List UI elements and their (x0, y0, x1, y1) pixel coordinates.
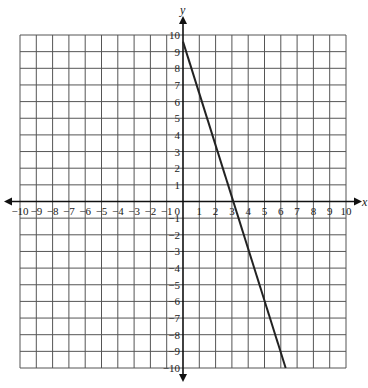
x-tick-label: −6 (79, 205, 91, 217)
origin-label: 0 (175, 205, 181, 217)
y-tick-label: 6 (175, 96, 181, 108)
x-axis-arrow-right-icon (354, 198, 362, 206)
x-tick-label: −3 (128, 205, 140, 217)
x-tick-label: 4 (245, 205, 251, 217)
x-tick-label: 1 (197, 205, 203, 217)
x-tick-label: 10 (341, 205, 353, 217)
y-tick-label: 3 (175, 146, 181, 158)
y-tick-label: 2 (175, 162, 181, 174)
x-tick-label: −8 (47, 205, 59, 217)
x-tick-label: 9 (327, 205, 333, 217)
x-tick-label: 6 (278, 205, 284, 217)
y-axis-arrow-down-icon (179, 374, 187, 382)
y-tick-label: −10 (163, 362, 181, 374)
y-tick-label: −4 (168, 262, 180, 274)
x-tick-label: −10 (11, 205, 29, 217)
x-tick-label: 5 (262, 205, 268, 217)
x-tick-label: 7 (294, 205, 300, 217)
y-axis-label: y (179, 3, 186, 17)
y-tick-label: 9 (175, 46, 181, 58)
y-tick-label: −6 (168, 295, 180, 307)
x-tick-label: −7 (63, 205, 75, 217)
y-tick-label: −3 (168, 245, 180, 257)
y-tick-label: 4 (175, 129, 181, 141)
x-tick-label: −2 (145, 205, 157, 217)
y-tick-label: 1 (175, 179, 181, 191)
y-tick-label: −5 (168, 279, 180, 291)
y-tick-label: −8 (168, 329, 180, 341)
x-tick-label: −4 (112, 205, 124, 217)
y-tick-label: 8 (175, 62, 181, 74)
y-tick-label: −9 (168, 345, 180, 357)
y-tick-label: 7 (175, 79, 181, 91)
x-tick-label: −9 (30, 205, 42, 217)
y-tick-label: 10 (169, 29, 181, 41)
x-tick-label: 2 (213, 205, 219, 217)
y-axis-arrow-up-icon (179, 16, 187, 24)
y-tick-label: 5 (175, 112, 181, 124)
x-tick-label: −5 (96, 205, 108, 217)
y-tick-label: −2 (168, 229, 180, 241)
x-axis-label: x (361, 195, 368, 209)
y-tick-label: −7 (168, 312, 180, 324)
x-tick-label: 8 (311, 205, 317, 217)
axes (4, 16, 362, 382)
coordinate-plane: −10−9−8−7−6−5−4−3−2−11234567891010987654… (0, 0, 368, 388)
